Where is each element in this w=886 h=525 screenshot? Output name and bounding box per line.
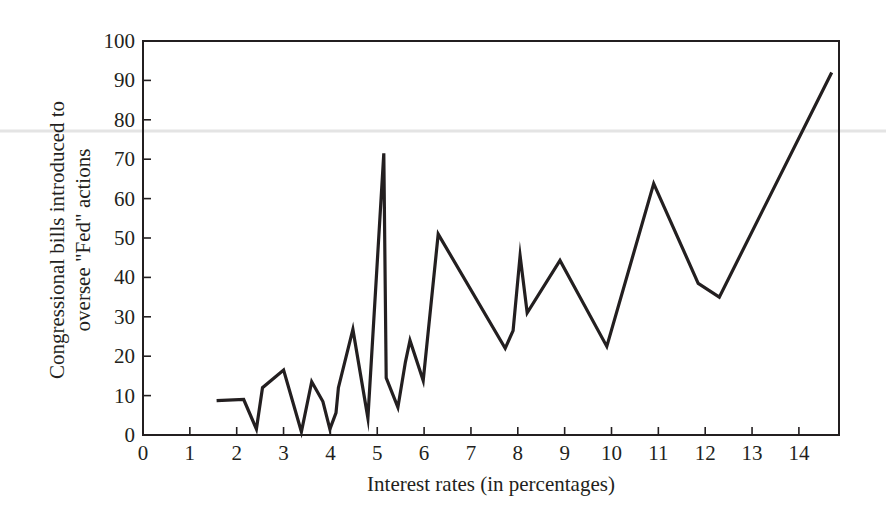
x-tick-label: 12 bbox=[695, 441, 716, 465]
series-line bbox=[217, 73, 832, 432]
y-axis-title-line-2: oversee "Fed" actions bbox=[71, 149, 95, 332]
x-tick-label: 2 bbox=[231, 441, 242, 465]
x-tick-label: 6 bbox=[419, 441, 430, 465]
x-tick-label: 7 bbox=[466, 441, 477, 465]
y-tick-label: 40 bbox=[114, 265, 135, 289]
y-tick-label: 50 bbox=[114, 226, 135, 250]
y-tick-label: 0 bbox=[125, 423, 136, 447]
y-tick-label: 60 bbox=[114, 187, 135, 211]
x-tick-label: 13 bbox=[742, 441, 763, 465]
y-tick-label: 100 bbox=[104, 29, 136, 53]
y-tick-label: 30 bbox=[114, 305, 135, 329]
x-tick-label: 3 bbox=[278, 441, 289, 465]
x-tick-label: 1 bbox=[185, 441, 196, 465]
y-axis-title: Congressional bills introduced to overse… bbox=[45, 101, 95, 379]
x-axis-title: Interest rates (in percentages) bbox=[367, 472, 615, 496]
y-tick-label: 90 bbox=[114, 68, 135, 92]
x-tick-label: 4 bbox=[325, 441, 336, 465]
x-tick-label: 5 bbox=[372, 441, 383, 465]
x-tick-label: 11 bbox=[648, 441, 668, 465]
y-tick-label: 80 bbox=[114, 108, 135, 132]
plot-border bbox=[143, 41, 839, 435]
y-axis-title-line-1: Congressional bills introduced to bbox=[45, 101, 69, 379]
plot-frame bbox=[143, 41, 839, 435]
data-series bbox=[217, 73, 832, 432]
x-tick-label: 14 bbox=[788, 441, 810, 465]
x-axis-ticks: 01234567891011121314 bbox=[138, 427, 810, 465]
x-tick-label: 8 bbox=[513, 441, 524, 465]
y-tick-label: 20 bbox=[114, 344, 135, 368]
x-tick-label: 0 bbox=[138, 441, 149, 465]
line-chart: 01234567891011121314 0102030405060708090… bbox=[0, 0, 886, 525]
x-tick-label: 10 bbox=[601, 441, 622, 465]
y-tick-label: 10 bbox=[114, 384, 135, 408]
x-tick-label: 9 bbox=[559, 441, 570, 465]
y-tick-label: 70 bbox=[114, 147, 135, 171]
